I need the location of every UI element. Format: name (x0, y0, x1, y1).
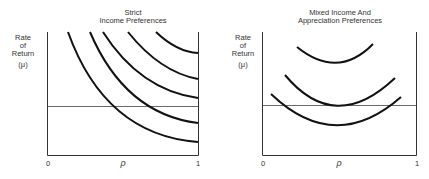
right-x-tick-1: 1 (414, 160, 420, 168)
left-x-tick-0: 0 (45, 160, 51, 168)
right-y-label-line-4: (μ) (228, 61, 258, 69)
right-x-label: ρ (334, 159, 344, 167)
left-panel (48, 32, 199, 156)
left-title: Strict Income Preferences (88, 9, 178, 25)
left-curve-3 (103, 32, 198, 98)
right-x-tick-0: 0 (260, 160, 266, 168)
left-x-label: ρ (118, 159, 128, 167)
left-y-label: Rate of Return (μ) (8, 34, 38, 69)
right-title: Mixed Income And Appreciation Preference… (290, 9, 390, 25)
right-curve-2 (285, 75, 395, 106)
right-y-label: Rate of Return (μ) (228, 34, 258, 69)
right-curve-1 (297, 44, 373, 63)
left-y-label-line-3: Return (8, 50, 38, 58)
right-y-label-line-3: Return (228, 50, 258, 58)
left-title-line-2: Income Preferences (88, 17, 178, 25)
right-panel (263, 32, 417, 156)
left-curve-5 (156, 32, 198, 53)
left-x-tick-1: 1 (195, 160, 201, 168)
left-y-label-line-4: (μ) (8, 61, 38, 69)
right-curve-3 (271, 94, 401, 125)
figure-canvas (0, 0, 429, 179)
right-title-line-2: Appreciation Preferences (290, 17, 390, 25)
